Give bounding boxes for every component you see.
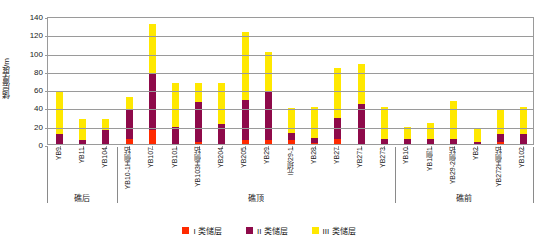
chart-root: 储层厚度/m YB9YB11YB104YB10-1H侧钻YB107YB101YB… (0, 0, 538, 252)
group-label: 礁前 (395, 192, 534, 203)
y-tick (45, 36, 48, 37)
bar-segment (497, 134, 504, 142)
bar-segment (450, 101, 457, 138)
bar-segment (358, 64, 365, 104)
bar-segment (149, 24, 156, 72)
legend-label: I 类储层 (193, 225, 221, 236)
bar-segment (381, 107, 388, 138)
bar-segment (195, 102, 202, 142)
bar-segment (265, 140, 272, 144)
bar-segment (288, 140, 295, 144)
legend-item[interactable]: I 类储层 (182, 225, 221, 236)
bar-segment (427, 139, 434, 144)
bar-segment (497, 142, 504, 144)
bar-column (265, 52, 272, 144)
bar-column (474, 129, 481, 144)
y-tick (45, 18, 48, 19)
legend-swatch (182, 227, 189, 234)
bar-column (288, 108, 295, 144)
y-tick-label: 120 (15, 31, 43, 40)
bar-segment (102, 130, 109, 144)
gridline (48, 36, 533, 37)
group-band: 礁后礁顶礁前 (47, 147, 534, 203)
bar-segment (265, 92, 272, 140)
bar-segment (218, 83, 225, 124)
bar-segment (172, 83, 179, 127)
bar-segment (381, 139, 388, 144)
bar-column (311, 107, 318, 144)
gridline (48, 109, 533, 110)
bar-segment (288, 108, 295, 133)
group-label: 礁后 (47, 192, 117, 203)
y-tick (45, 91, 48, 92)
y-axis-title: 储层厚度/m (2, 58, 16, 99)
bar-column (450, 101, 457, 144)
bar-column (334, 68, 341, 144)
y-tick-label: 60 (15, 86, 43, 95)
bar-segment (126, 97, 133, 110)
bar-segment (288, 133, 295, 140)
bar-column (79, 119, 86, 144)
y-tick (45, 73, 48, 74)
bar-segment (56, 134, 63, 144)
bar-column (404, 127, 411, 144)
bar-segment (195, 83, 202, 102)
legend-item[interactable]: II 类储层 (246, 225, 288, 236)
bar-segment (172, 127, 179, 144)
bar-segment (126, 110, 133, 138)
gridline (48, 55, 533, 56)
bar-column (427, 123, 434, 144)
bar-column (149, 24, 156, 144)
y-tick (45, 109, 48, 110)
gridline (48, 73, 533, 74)
y-tick-label: 0 (15, 141, 43, 150)
chart-legend: I 类储层II 类储层III 类储层 (0, 225, 538, 236)
y-tick (45, 128, 48, 129)
bar-segment (242, 32, 249, 101)
bar-segment (195, 142, 202, 144)
legend-label: III 类储层 (323, 225, 356, 236)
bar-segment (242, 140, 249, 144)
bar-segment (450, 139, 457, 144)
bar-segment (265, 52, 272, 92)
bar-segment (334, 139, 341, 144)
bar-segment (126, 139, 133, 144)
y-tick-label: 80 (15, 68, 43, 77)
group-label: 礁顶 (117, 192, 395, 203)
y-tick-label: 20 (15, 123, 43, 132)
y-tick-label: 40 (15, 104, 43, 113)
bar-column (520, 107, 527, 144)
gridline (48, 91, 533, 92)
bar-column (102, 119, 109, 144)
bar-column (381, 107, 388, 144)
legend-label: II 类储层 (257, 225, 288, 236)
y-tick-label: 100 (15, 50, 43, 59)
legend-swatch (246, 227, 253, 234)
bar-segment (474, 142, 481, 144)
bar-segment (404, 139, 411, 144)
y-tick-label: 140 (15, 13, 43, 22)
bar-segment (427, 123, 434, 139)
bar-column (126, 97, 133, 144)
legend-swatch (312, 227, 319, 234)
bar-segment (149, 73, 156, 131)
bar-segment (79, 119, 86, 140)
bar-segment (520, 107, 527, 134)
bar-segment (79, 140, 86, 144)
bar-segment (311, 107, 318, 138)
gridline (48, 128, 533, 129)
y-tick (45, 55, 48, 56)
plot-area (47, 17, 534, 145)
bar-segment (474, 129, 481, 142)
bar-column (56, 92, 63, 144)
bar-segment (311, 143, 318, 144)
bar-segment (149, 130, 156, 144)
bar-column (358, 64, 365, 144)
bar-segment (520, 134, 527, 144)
legend-item[interactable]: III 类储层 (312, 225, 356, 236)
bar-segment (497, 110, 504, 134)
bar-segment (242, 100, 249, 140)
